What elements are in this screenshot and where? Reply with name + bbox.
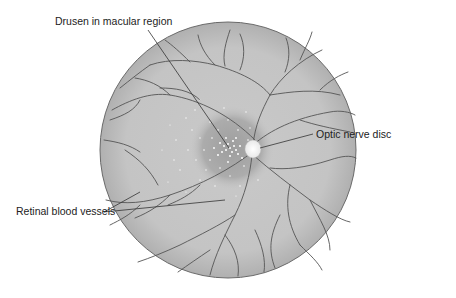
label-drusen: Drusen in macular region bbox=[55, 15, 172, 27]
label-retinal-blood-vessels: Retinal blood vessels bbox=[16, 205, 115, 217]
label-optic-nerve-disc: Optic nerve disc bbox=[316, 128, 391, 140]
optic-nerve-disc bbox=[245, 140, 261, 158]
fundus-illustration bbox=[0, 0, 456, 298]
